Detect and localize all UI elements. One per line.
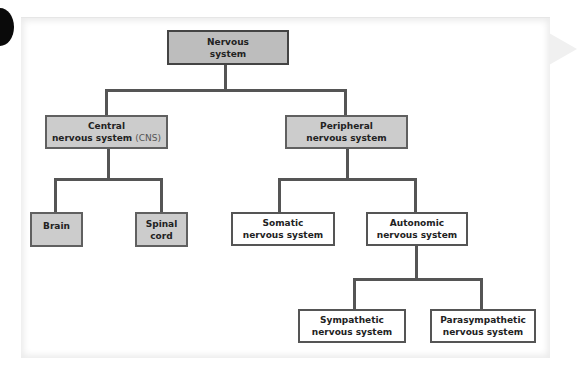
- node-abbreviation: (CNS): [135, 133, 161, 143]
- connector-level1-horizontal: [105, 89, 346, 92]
- connector-cns-horizontal: [54, 178, 162, 181]
- node-nervous-system: Nervous system: [167, 30, 289, 65]
- connector-to-autonomic: [414, 178, 417, 213]
- node-sympathetic-nervous-system: Sympathetic nervous system: [298, 309, 406, 343]
- connector-root-down: [224, 64, 227, 91]
- connector-to-cns: [105, 89, 108, 116]
- node-label-line2: nervous system: [243, 229, 323, 241]
- node-somatic-nervous-system: Somatic nervous system: [231, 212, 335, 246]
- node-label-line2: system: [207, 48, 249, 60]
- node-label-line2: cord: [146, 230, 178, 242]
- node-label-line1: Parasympathetic: [440, 314, 526, 326]
- node-label-line1: Brain: [43, 220, 70, 232]
- connector-to-parasympathetic: [480, 278, 483, 311]
- node-label-line1: Somatic: [243, 217, 323, 229]
- connector-to-spinal: [160, 178, 163, 213]
- node-autonomic-nervous-system: Autonomic nervous system: [366, 212, 468, 246]
- node-label-line1: Peripheral: [306, 120, 386, 132]
- connector-to-somatic: [278, 178, 281, 213]
- connector-autonomic-down: [415, 245, 418, 280]
- node-spinal-cord: Spinal cord: [135, 212, 188, 247]
- connector-to-brain: [54, 178, 57, 213]
- connector-pns-down: [346, 148, 349, 180]
- node-label-line2: nervous system: [377, 229, 457, 241]
- node-label-line2: nervous system: [306, 132, 386, 144]
- diagram-panel: [21, 17, 550, 358]
- node-parasympathetic-nervous-system: Parasympathetic nervous system: [430, 309, 536, 343]
- node-brain: Brain: [30, 212, 83, 247]
- connector-autonomic-horizontal: [353, 278, 483, 281]
- node-label-line2: nervous system: [52, 133, 132, 143]
- callout-pointer: [549, 33, 577, 65]
- node-label-line1: Sympathetic: [312, 314, 392, 326]
- node-label-line1: Central: [52, 120, 161, 132]
- node-central-nervous-system: Central nervous system (CNS): [45, 115, 168, 149]
- connector-pns-horizontal: [278, 178, 416, 181]
- connector-cns-down: [107, 148, 110, 180]
- connector-to-pns: [344, 89, 347, 116]
- node-label-line1: Nervous: [207, 36, 249, 48]
- node-label-line1: Spinal: [146, 218, 178, 230]
- node-label-line2: nervous system: [440, 326, 526, 338]
- node-label-line2: nervous system: [312, 326, 392, 338]
- connector-to-sympathetic: [353, 278, 356, 311]
- section-marker-dot: [0, 8, 14, 46]
- node-label-line1: Autonomic: [377, 217, 457, 229]
- node-peripheral-nervous-system: Peripheral nervous system: [285, 115, 408, 149]
